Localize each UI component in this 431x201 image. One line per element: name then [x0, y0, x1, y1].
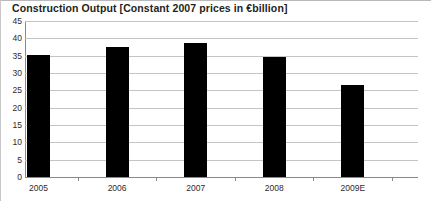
y-tick-label-0: 0 [2, 173, 22, 182]
x-tick-label-2009E: 2009E [323, 184, 383, 193]
x-tick-2005 [78, 177, 79, 181]
gridline-45 [25, 21, 418, 22]
y-tick-label-25: 25 [2, 86, 22, 95]
y-tick-label-15: 15 [2, 121, 22, 130]
x-tick-2009E [392, 177, 393, 181]
x-tick-2008 [313, 177, 314, 181]
y-tick-label-45: 45 [2, 17, 22, 26]
bar-2008[interactable] [263, 57, 286, 177]
gridline-40 [25, 38, 418, 39]
gridline-0 [25, 177, 418, 178]
y-tick-label-20: 20 [2, 104, 22, 113]
bar-2006[interactable] [106, 47, 129, 177]
x-tick-label-2005: 2005 [9, 184, 69, 193]
y-tick-label-30: 30 [2, 69, 22, 78]
bar-2005[interactable] [27, 55, 50, 177]
x-tick-label-2006: 2006 [87, 184, 147, 193]
y-axis-tick-labels: 051015202530354045 [0, 21, 22, 177]
y-tick-label-10: 10 [2, 138, 22, 147]
x-tick-2006 [156, 177, 157, 181]
x-tick-label-2007: 2007 [166, 184, 226, 193]
x-tick-2007 [235, 177, 236, 181]
x-tick-label-2008: 2008 [244, 184, 304, 193]
construction-output-bar-chart: Construction Output [Constant 2007 price… [0, 0, 431, 201]
chart-title: Construction Output [Constant 2007 price… [12, 2, 288, 14]
plot-area [25, 21, 418, 177]
y-tick-label-40: 40 [2, 34, 22, 43]
y-tick-label-35: 35 [2, 52, 22, 61]
bar-2009E[interactable] [341, 85, 364, 177]
gridline-30 [25, 73, 418, 74]
bar-2007[interactable] [184, 43, 207, 178]
gridline-35 [25, 56, 418, 57]
y-tick-label-5: 5 [2, 156, 22, 165]
